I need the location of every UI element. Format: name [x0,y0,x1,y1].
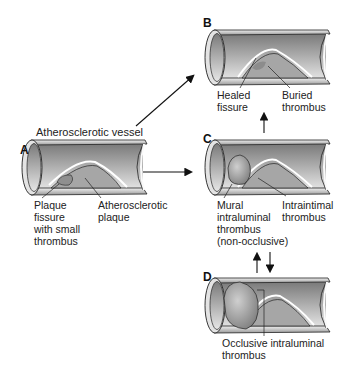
label-intraintimal-thrombus: Intraintimal thrombus [282,199,333,223]
label-buried-thrombus: Buried thrombus [282,89,326,113]
panel-label-b: B [203,16,212,30]
label-healed-fissure: Healed fissure [217,89,250,113]
mural-thrombus [228,155,250,184]
vessel-d [205,278,330,336]
diagram-canvas [0,0,350,367]
vessel-b [205,30,330,88]
vessel-a [22,140,147,198]
panel-label-d: D [203,270,212,284]
arrow-a-to-b [136,76,193,126]
vessel-c [205,140,330,198]
label-occlusive-thrombus: Occlusive intraluminal thrombus [222,337,324,361]
label-mural-thrombus: Mural intraluminal thrombus (non-occlusi… [217,199,288,247]
label-plaque-fissure: Plaque fissure with small thrombus [34,199,80,247]
panel-label-c: C [203,132,212,146]
label-atherosclerotic-plaque: Atherosclerotic plaque [98,199,167,223]
panel-a-title: Atherosclerotic vessel [36,126,143,138]
panel-label-a: A [20,143,29,157]
